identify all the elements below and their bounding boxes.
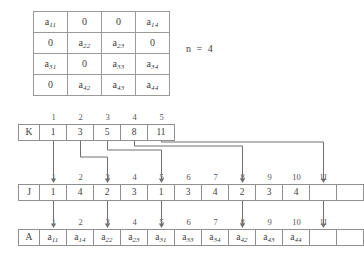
a-array-cell: a14 <box>67 229 94 246</box>
matrix-cell: 0 <box>136 33 170 54</box>
matrix-cell: 0 <box>68 54 102 75</box>
matrix-cell: a22 <box>68 33 102 54</box>
a-index-label: 1 <box>44 218 64 227</box>
j-array-cell: 1 <box>148 184 175 201</box>
a-array-cell: a33 <box>175 229 202 246</box>
k-array-cell: 3 <box>67 124 94 141</box>
array-cell-sub: 43 <box>267 236 274 244</box>
a-index-label: 7 <box>206 218 226 227</box>
k-array-label: K <box>18 124 40 141</box>
a-index-label: 6 <box>179 218 199 227</box>
matrix-cell: a23 <box>102 33 136 54</box>
j-index-label: 3 <box>98 173 118 182</box>
k-index-label: 1 <box>44 113 64 122</box>
matrix-body: a11 0 0 a14 0 a22 a23 0 a31 0 a33 a34 0 … <box>34 12 170 96</box>
a-array-cell: a31 <box>148 229 175 246</box>
j-array-cell: 3 <box>121 184 148 201</box>
j-index-label: 11 <box>314 173 334 182</box>
j-array-label: J <box>18 184 40 201</box>
array-cell-sub: 14 <box>78 236 85 244</box>
j-array-cell: 1 <box>40 184 67 201</box>
a-array-cell: a23 <box>121 229 148 246</box>
a-index-label: 8 <box>233 218 253 227</box>
array-cell-trailing <box>337 229 364 246</box>
matrix-row: 0 a22 a23 0 <box>34 33 170 54</box>
matrix-cell: 0 <box>34 75 68 96</box>
matrix-row: a11 0 0 a14 <box>34 12 170 33</box>
matrix-cell: a43 <box>102 75 136 96</box>
k-index-label: 3 <box>98 113 118 122</box>
j-index-label: 2 <box>71 173 91 182</box>
k-array-cell: 5 <box>94 124 121 141</box>
matrix-cell: a33 <box>102 54 136 75</box>
k-array-cell: 11 <box>148 124 175 141</box>
matrix-cell-sub: 14 <box>151 21 158 29</box>
matrix-cell: 0 <box>68 12 102 33</box>
matrix-cell: a44 <box>136 75 170 96</box>
matrix-row: 0 a42 a43 a44 <box>34 75 170 96</box>
matrix-cell-sub: 34 <box>151 63 158 71</box>
j-index-label: 6 <box>179 173 199 182</box>
array-cell-sub: 34 <box>213 236 220 244</box>
a-array-cell: a42 <box>229 229 256 246</box>
j-index-label: 5 <box>152 173 172 182</box>
matrix-cell-sub: 11 <box>49 21 56 29</box>
array-cell-sub: 23 <box>132 236 139 244</box>
a-array-cell: a44 <box>283 229 310 246</box>
matrix-row: a31 0 a33 a34 <box>34 54 170 75</box>
a-array-label: A <box>18 229 40 246</box>
array-cell-sub: 44 <box>294 236 301 244</box>
k-index-label: 5 <box>152 113 172 122</box>
k-array-cell: 1 <box>40 124 67 141</box>
a-index-label: 3 <box>98 218 118 227</box>
a-index-label: 10 <box>287 218 307 227</box>
matrix-cell-sub: 22 <box>83 42 90 50</box>
matrix-cell: a11 <box>34 12 68 33</box>
a-array-cell: a11 <box>40 229 67 246</box>
array-cell-sub: 42 <box>240 236 247 244</box>
k-index-label: 2 <box>71 113 91 122</box>
matrix-cell-sub: 23 <box>117 42 124 50</box>
a-index-label: 2 <box>71 218 91 227</box>
k-array-cell: 8 <box>121 124 148 141</box>
matrix-cell-base: 0 <box>48 79 53 90</box>
a-index-label: 4 <box>125 218 145 227</box>
j-index-label: 10 <box>287 173 307 182</box>
array-cell-sub: 22 <box>105 236 112 244</box>
sparse-matrix: a11 0 0 a14 0 a22 a23 0 a31 0 a33 a34 0 … <box>33 11 170 96</box>
j-index-label: 8 <box>233 173 253 182</box>
a-index-label: 9 <box>260 218 280 227</box>
j-index-label: 7 <box>206 173 226 182</box>
matrix-cell: a31 <box>34 54 68 75</box>
array-cell-sub: 33 <box>186 236 193 244</box>
array-cell-trailing <box>337 184 364 201</box>
a-array-cell: a34 <box>202 229 229 246</box>
matrix-cell-sub: 43 <box>117 84 124 92</box>
matrix-cell-base: 0 <box>82 16 87 27</box>
a-index-label: 11 <box>314 218 334 227</box>
a-array-cell <box>310 229 337 246</box>
matrix-cell: 0 <box>34 33 68 54</box>
j-index-label: 4 <box>125 173 145 182</box>
array-cell-sub: 31 <box>159 236 166 244</box>
a-array-cell: a22 <box>94 229 121 246</box>
j-array-cell: 3 <box>256 184 283 201</box>
matrix-dimension-label: n = 4 <box>186 43 214 54</box>
matrix-cell-sub: 33 <box>117 63 124 71</box>
matrix-cell-sub: 44 <box>151 84 158 92</box>
a-array-cell: a43 <box>256 229 283 246</box>
matrix-cell-base: 0 <box>82 58 87 69</box>
j-array-cell: 2 <box>229 184 256 201</box>
matrix-cell: 0 <box>102 12 136 33</box>
matrix-cell-sub: 42 <box>83 84 90 92</box>
matrix-cell-base: 0 <box>116 16 121 27</box>
matrix-cell: a42 <box>68 75 102 96</box>
j-array-cell: 4 <box>283 184 310 201</box>
a-index-label: 5 <box>152 218 172 227</box>
array-cell-sub: 11 <box>52 236 59 244</box>
j-array-cell: 4 <box>202 184 229 201</box>
j-array-cell <box>310 184 337 201</box>
matrix-cell-base: 0 <box>48 37 53 48</box>
j-array-cell: 2 <box>94 184 121 201</box>
j-array-cell: 3 <box>175 184 202 201</box>
